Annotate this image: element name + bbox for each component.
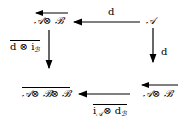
- edge-label-top: d: [108, 7, 114, 17]
- node-bottom-right: 𝒜⊗ ℬ: [143, 89, 172, 99]
- edge-label-left: d ⊗ iℬ: [10, 40, 40, 55]
- node-bottom-left: 𝒜⊗ ℬ⊗ ℬ: [22, 87, 70, 99]
- edge-label-left-sub: ℬ: [34, 46, 40, 54]
- edge-label-bottom-b-sub: ℬ: [121, 110, 127, 118]
- arrows-layer: [0, 0, 184, 124]
- edge-label-bottom: i𝒜⊗ dℬ: [93, 104, 127, 119]
- node-top-right: 𝒜: [146, 16, 155, 26]
- node-top-left: 𝒜⊗ ℬ: [34, 16, 63, 26]
- edge-label-right: d: [161, 47, 167, 57]
- edge-label-bottom-b: ⊗ d: [103, 105, 121, 116]
- edge-label-left-main: d ⊗ i: [10, 41, 34, 52]
